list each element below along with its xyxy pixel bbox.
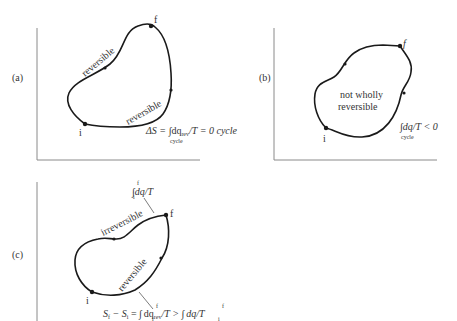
- panel-b-point-f: [398, 44, 402, 48]
- panel-a-equation: ΔS = ∫dqrev/T = 0 cycle cycle: [145, 125, 238, 144]
- integral2-upper-limit: f: [222, 303, 224, 309]
- panel-c-point-f: [164, 213, 168, 217]
- rev-subscript: rev: [154, 314, 162, 320]
- panel-c-arrow-upper: [112, 237, 115, 240]
- panel-c-point-i: [90, 290, 94, 294]
- panel-b-label: (b): [259, 72, 271, 84]
- panel-c-upper-annotation: ∫dq/T f i: [131, 180, 155, 200]
- dq: dq: [171, 125, 181, 136]
- panel-a-arrow-right: [169, 88, 172, 91]
- panel-c: (c) i f irreversible reversible ∫dq/T f …: [12, 180, 224, 321]
- panel-b-center-line2: reversible: [338, 101, 378, 112]
- svg-text:Sf − Si = ∫dqrev/T > ∫dq/T: Sf − Si = ∫dqrev/T > ∫dq/T: [103, 308, 206, 320]
- panel-a-i-label: i: [79, 127, 82, 138]
- panel-c-lower-leader-line: [139, 292, 153, 309]
- panel-b-arrow-upper: [343, 62, 346, 65]
- panel-b-arrow-right: [402, 91, 405, 94]
- panel-a-point-f: [149, 24, 153, 28]
- panel-b-i-label: i: [323, 133, 326, 144]
- panel-a-f-label: f: [154, 14, 158, 25]
- panel-c-i-label: i: [86, 295, 89, 306]
- panel-b: (b) i f not wholly reversible ∫dq/T < 0 …: [259, 28, 438, 160]
- equation-body: dq/T < 0: [403, 121, 438, 132]
- cycle-limit: cycle: [401, 134, 414, 140]
- dq-over-t: dq/T: [135, 186, 155, 197]
- equals: =: [128, 308, 139, 319]
- panel-b-equation: ∫dq/T < 0 cycle: [399, 121, 438, 140]
- svg-text:ΔS = ∫dqrev/T = 0 cycle: ΔS = ∫dqrev/T = 0 cycle: [145, 125, 238, 137]
- panel-c-label: (c): [12, 249, 23, 261]
- equation-rest: /T = 0 cycle: [188, 125, 238, 136]
- panel-b-center-line1: not wholly: [340, 89, 383, 100]
- integral2-lower-limit: i: [218, 316, 220, 321]
- panel-b-point-i: [324, 126, 328, 130]
- minus-s-initial: − S: [110, 308, 127, 319]
- panel-a-point-i: [83, 122, 87, 126]
- rev-subscript: rev: [181, 131, 189, 137]
- cycle-limit: cycle: [170, 138, 183, 144]
- upper-limit: f: [137, 180, 139, 186]
- integral-sign-1: ∫: [138, 308, 143, 320]
- panel-c-upper-leader-line: [144, 198, 154, 213]
- panel-a-label: (a): [12, 72, 23, 84]
- panel-c-upper-path-label: irreversible: [99, 207, 145, 238]
- integral-sign-2: ∫: [180, 308, 185, 320]
- entropy-cycle-diagram: (a) i f reversible reversible ΔS = ∫dqre…: [0, 0, 457, 321]
- integral1-upper-limit: f: [156, 303, 158, 309]
- panel-a-lower-path-label: reversible: [124, 97, 164, 127]
- panel-b-f-label: f: [403, 38, 407, 49]
- panel-c-lower-path-label: reversible: [115, 256, 149, 294]
- panel-a: (a) i f reversible reversible ΔS = ∫dqre…: [12, 14, 238, 160]
- panel-a-arrow-upper: [103, 66, 106, 69]
- dq-over-t: dq/T: [186, 308, 206, 319]
- panel-c-arrow-right: [159, 256, 162, 259]
- delta-s: ΔS =: [145, 125, 169, 136]
- panel-c-f-label: f: [170, 208, 174, 219]
- over-t-greater: /T >: [160, 308, 181, 319]
- panel-a-upper-path-label: reversible: [79, 44, 117, 78]
- panel-c-bottom-equation: Sf − Si = ∫dqrev/T > ∫dq/T f i f i: [103, 303, 224, 321]
- svg-text:∫dq/T < 0: ∫dq/T < 0: [399, 121, 438, 133]
